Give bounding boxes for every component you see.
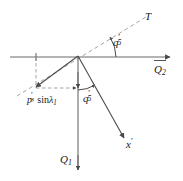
axis-q1-sub: 1 bbox=[68, 158, 72, 167]
diagram-svg bbox=[0, 0, 183, 181]
angle-lower-sub: 5 bbox=[88, 95, 92, 103]
label-angle-lower-glyph: qx′5 bbox=[83, 92, 93, 104]
label-angle-lower: qx′5 bbox=[83, 93, 93, 104]
angle-upper-sub: 5 bbox=[118, 39, 122, 47]
label-axis-q1: Q1 bbox=[60, 154, 72, 167]
label-axis-q2: Q2 bbox=[154, 64, 166, 77]
figure-canvas: T qx′5 qx′5 Q2 Q1 x′ pi′3 sinλ1 bbox=[0, 0, 183, 181]
axis-q2-sub: 2 bbox=[162, 68, 166, 77]
projection-p-sub: 3 bbox=[31, 97, 35, 104]
label-tangent-T-text: T bbox=[145, 10, 151, 22]
axis-q1-base: Q bbox=[60, 153, 68, 165]
label-angle-upper-glyph: qx′5 bbox=[113, 36, 123, 48]
q2-overbar-arrow bbox=[154, 60, 166, 61]
axis-q2-base: Q bbox=[154, 63, 162, 75]
axis-x-prime-mark: ′ bbox=[131, 136, 133, 146]
angle-arc-lower bbox=[78, 85, 95, 90]
label-projection-p: pi′3 bbox=[27, 94, 37, 105]
label-tangent-T: T bbox=[145, 11, 151, 22]
label-angle-upper: qx′5 bbox=[113, 37, 123, 48]
projection-sin: sin bbox=[37, 94, 49, 105]
label-axis-q2-glyph: Q2 bbox=[154, 63, 166, 75]
projection-lambda-sub: 1 bbox=[53, 99, 57, 107]
label-axis-x-prime: x′ bbox=[126, 137, 133, 150]
projection-vector bbox=[36, 56, 78, 87]
label-projection: pi′3 sinλ1 bbox=[27, 95, 57, 107]
